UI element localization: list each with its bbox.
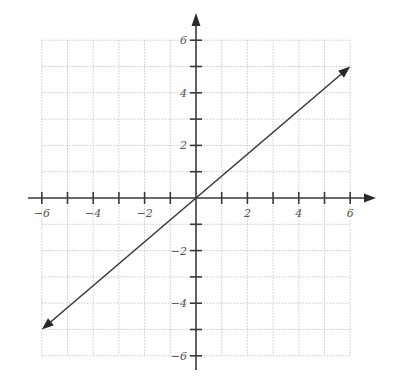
y-tick-label: −6 bbox=[171, 350, 187, 363]
x-tick-label: 6 bbox=[347, 207, 354, 220]
x-tick-label: −4 bbox=[85, 207, 101, 220]
y-axis-arrow-icon bbox=[192, 13, 201, 26]
y-tick-label: −4 bbox=[171, 297, 187, 310]
x-tick-label: −6 bbox=[34, 207, 50, 220]
x-axis-arrow-icon bbox=[364, 194, 376, 203]
y-tick-label: 4 bbox=[179, 87, 187, 100]
coordinate-plane: −6−4−2246642−2−4−6 bbox=[0, 0, 399, 388]
x-tick-label: 2 bbox=[243, 207, 251, 220]
y-tick-label: 2 bbox=[179, 139, 187, 152]
x-tick-label: −2 bbox=[136, 207, 152, 220]
y-tick-label: −2 bbox=[171, 245, 187, 258]
x-tick-label: 4 bbox=[294, 207, 302, 220]
y-tick-label: 6 bbox=[180, 34, 187, 47]
